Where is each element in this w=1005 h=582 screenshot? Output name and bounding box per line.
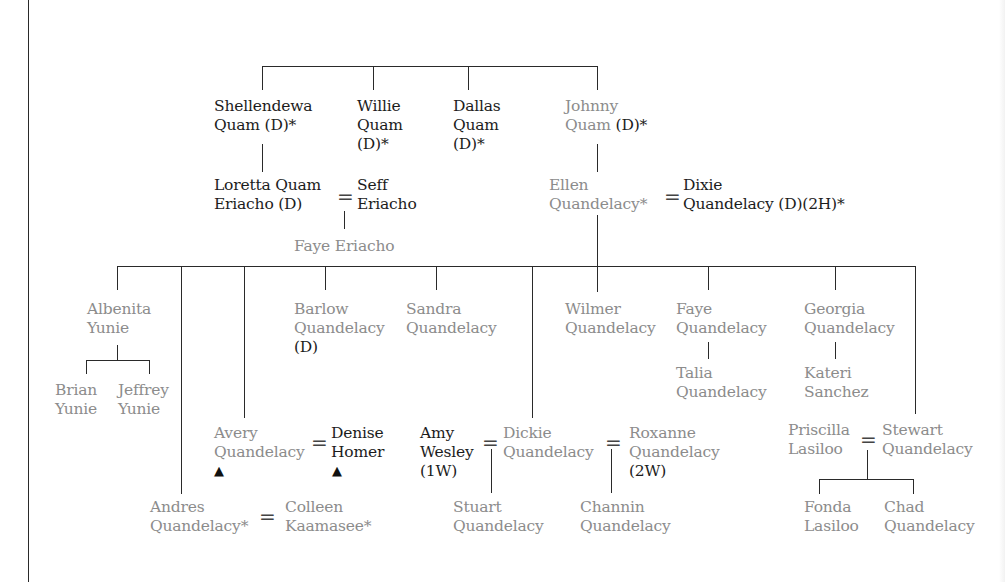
name-line: Loretta Quam (214, 176, 321, 195)
person-avery-quandelacy: Avery Quandelacy (214, 424, 305, 462)
connector-line (344, 211, 345, 229)
name-line: Priscilla (788, 421, 850, 440)
name-line: Georgia (804, 300, 895, 319)
name-line: Quandelacy (D)(2H)* (683, 195, 845, 214)
person-shellendewa-quam: Shellendewa Quam (D)* (214, 97, 312, 135)
name-line: Lasiloo (788, 440, 850, 459)
status-marker: (D)* (616, 116, 647, 134)
person-faye-eriacho: Faye Eriacho (294, 237, 394, 256)
name-line: Dallas (453, 97, 501, 116)
name-line: Quam (453, 116, 501, 135)
name-line: Quandelacy (214, 443, 305, 462)
name-line: Avery (214, 424, 305, 443)
status-marker: (2W) (629, 462, 720, 481)
name-line: (1W) (420, 462, 473, 481)
name-line: Quam (D)* (214, 116, 312, 135)
name-line: Dickie (503, 424, 594, 443)
connector-line (819, 479, 914, 480)
connector-line (117, 266, 915, 267)
marriage-equals: = (860, 429, 877, 449)
person-ellen-quandelacy: Ellen Quandelacy* (549, 176, 647, 214)
name-line: Denise (331, 424, 384, 443)
name-line: Quam (D)* (565, 116, 647, 135)
connector-line (117, 345, 118, 360)
name-line: Brian (55, 381, 97, 400)
name-line: Seff (357, 176, 417, 195)
person-georgia-quandelacy: Georgia Quandelacy (804, 300, 895, 338)
name-line: Wesley (420, 443, 473, 462)
connector-line (86, 360, 150, 361)
name-line: Quandelacy (580, 517, 671, 536)
connector-line (835, 266, 836, 290)
connector-line (708, 342, 709, 359)
connector-line (262, 66, 598, 67)
name-line: Eriacho (D) (214, 195, 321, 214)
name-line: Chad (884, 498, 975, 517)
person-johnny-quam: Johnny Quam (D)* (565, 97, 647, 135)
name-line: Ellen (549, 176, 647, 195)
marriage-equals: = (311, 432, 328, 452)
name-line: Andres (150, 498, 248, 517)
connector-line (611, 449, 612, 493)
person-kateri-sanchez: Kateri Sanchez (804, 364, 868, 402)
connector-line (819, 479, 820, 494)
name-line: Quandelacy (629, 443, 720, 462)
name-line: Willie (357, 97, 403, 116)
name-line: Roxanne (629, 424, 720, 443)
person-dickie-quandelacy: Dickie Quandelacy (503, 424, 594, 462)
connector-line (532, 266, 533, 418)
person-wilmer-quandelacy: Wilmer Quandelacy (565, 300, 656, 338)
name-line: Channin (580, 498, 671, 517)
name-line: Quandelacy (884, 517, 975, 536)
marriage-equals: = (664, 186, 681, 206)
name-line: Quandelacy (676, 383, 767, 402)
triangle-marker-icon: ▲ (332, 464, 342, 477)
name-line: Quandelacy (294, 319, 385, 338)
person-talia-quandelacy: Talia Quandelacy (676, 364, 767, 402)
connector-line (867, 450, 868, 480)
person-stuart-quandelacy: Stuart Quandelacy (453, 498, 544, 536)
name-line: Yunie (118, 400, 169, 419)
name-line: Lasiloo (804, 517, 859, 536)
person-dallas-quam: Dallas Quam (D)* (453, 97, 501, 154)
name-line: Sanchez (804, 383, 868, 402)
name-line: Faye (676, 300, 767, 319)
connector-line (244, 266, 245, 418)
connector-line (913, 479, 914, 494)
name-line: Dixie (683, 176, 845, 195)
person-andres-quandelacy: Andres Quandelacy* (150, 498, 248, 536)
name-line: Quandelacy (804, 319, 895, 338)
person-roxanne-quandelacy: Roxanne Quandelacy (2W) (629, 424, 720, 481)
marriage-equals: = (259, 506, 276, 526)
name-line: Eriacho (357, 195, 417, 214)
person-loretta-quam-eriacho: Loretta Quam Eriacho (D) (214, 176, 321, 214)
name-line: Quandelacy* (549, 195, 647, 214)
person-priscilla-lasiloo: Priscilla Lasiloo (788, 421, 850, 459)
connector-line (597, 144, 598, 172)
person-albenita-yunie: Albenita Yunie (87, 300, 151, 338)
person-fonda-lasiloo: Fonda Lasiloo (804, 498, 859, 536)
connector-line (597, 215, 598, 292)
person-barlow-quandelacy: Barlow Quandelacy (D) (294, 300, 385, 357)
name-line: Wilmer (565, 300, 656, 319)
name-line: Sandra (406, 300, 497, 319)
name-line: Stuart (453, 498, 544, 517)
name-line: Stewart (882, 421, 973, 440)
marriage-equals: = (605, 432, 622, 452)
name-line: Shellendewa (214, 97, 312, 116)
name-line: Homer (331, 443, 384, 462)
person-amy-wesley: Amy Wesley (1W) (420, 424, 473, 481)
name-line: Yunie (55, 400, 97, 419)
name-line: Jeffrey (118, 381, 169, 400)
connector-line (149, 360, 150, 374)
name-line: (D)* (453, 135, 501, 154)
name-line: Faye Eriacho (294, 237, 394, 256)
connector-line (835, 342, 836, 359)
name-line: Quandelacy (565, 319, 656, 338)
person-sandra-quandelacy: Sandra Quandelacy (406, 300, 497, 338)
person-willie-quam: Willie Quam (D)* (357, 97, 403, 154)
name-line: Yunie (87, 319, 151, 338)
connector-line (86, 360, 87, 374)
name-line: Quandelacy (406, 319, 497, 338)
status-marker: (D) (294, 338, 385, 357)
